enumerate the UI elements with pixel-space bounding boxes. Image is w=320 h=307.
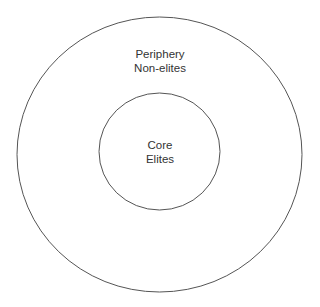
core-label-line2: Elites: [100, 152, 220, 166]
core-label-line1: Core: [100, 138, 220, 152]
periphery-label-line2: Non-elites: [100, 61, 220, 75]
periphery-label-line1: Periphery: [100, 47, 220, 61]
core-label: Core Elites: [100, 138, 220, 166]
periphery-label: Periphery Non-elites: [100, 47, 220, 75]
